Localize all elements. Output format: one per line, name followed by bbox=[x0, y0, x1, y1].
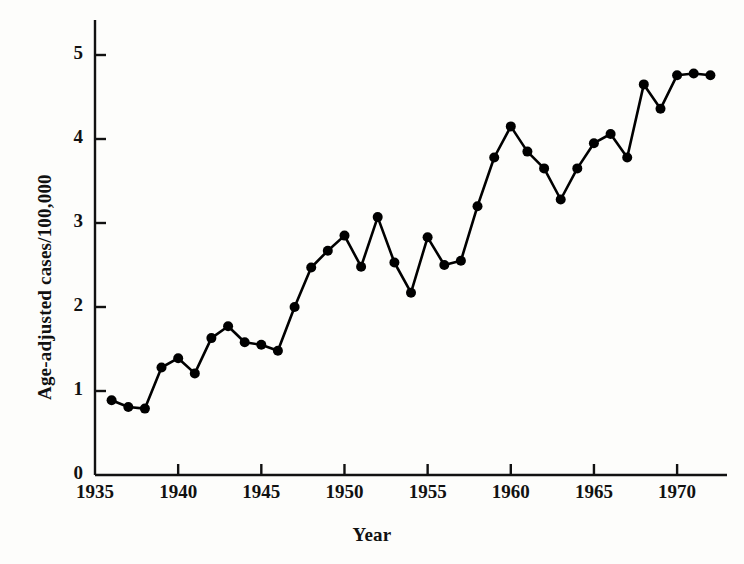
data-point-marker bbox=[622, 153, 632, 163]
data-point-marker bbox=[423, 232, 433, 242]
x-axis-tick-label: 1965 bbox=[564, 481, 624, 503]
y-axis-tick-label: 1 bbox=[49, 378, 83, 400]
y-axis-ticks bbox=[95, 55, 106, 391]
data-point-marker bbox=[373, 212, 383, 222]
data-point-marker bbox=[589, 138, 599, 148]
x-axis-title: Year bbox=[0, 524, 744, 546]
data-point-marker bbox=[439, 260, 449, 270]
data-point-marker bbox=[340, 231, 350, 241]
data-point-marker bbox=[489, 153, 499, 163]
data-point-marker bbox=[473, 201, 483, 211]
y-axis-tick-label: 3 bbox=[49, 210, 83, 232]
data-point-marker bbox=[107, 395, 117, 405]
data-point-marker bbox=[290, 302, 300, 312]
data-point-marker bbox=[705, 70, 715, 80]
data-point-marker bbox=[140, 404, 150, 414]
data-point-marker bbox=[406, 288, 416, 298]
x-axis-tick-label: 1960 bbox=[481, 481, 541, 503]
data-point-marker bbox=[456, 256, 466, 266]
data-point-marker bbox=[656, 104, 666, 114]
line-chart-canvas bbox=[0, 0, 744, 564]
data-point-marker bbox=[689, 69, 699, 79]
x-axis-tick-label: 1940 bbox=[148, 481, 208, 503]
data-point-marker bbox=[240, 337, 250, 347]
data-point-marker bbox=[522, 147, 532, 157]
x-axis-tick-label: 1945 bbox=[231, 481, 291, 503]
data-point-marker bbox=[506, 121, 516, 131]
data-series-line bbox=[112, 74, 711, 409]
y-axis-tick-label: 4 bbox=[49, 126, 83, 148]
chart-figure: Age-adjusted cases/100,000 Year 012345 1… bbox=[0, 0, 744, 564]
x-axis-tick-label: 1935 bbox=[65, 481, 125, 503]
data-point-marker bbox=[639, 79, 649, 89]
x-axis-ticks bbox=[178, 464, 677, 475]
data-point-marker bbox=[157, 363, 167, 373]
x-axis-tick-label: 1955 bbox=[398, 481, 458, 503]
data-point-marker bbox=[256, 340, 266, 350]
data-point-marker bbox=[356, 262, 366, 272]
data-point-marker bbox=[223, 321, 233, 331]
y-axis-tick-label: 2 bbox=[49, 294, 83, 316]
data-point-marker bbox=[539, 163, 549, 173]
data-point-marker bbox=[190, 368, 200, 378]
data-point-markers bbox=[107, 69, 716, 414]
axes bbox=[95, 20, 727, 475]
data-point-marker bbox=[389, 258, 399, 268]
data-point-marker bbox=[556, 195, 566, 205]
data-point-marker bbox=[173, 353, 183, 363]
data-point-marker bbox=[306, 263, 316, 273]
data-point-marker bbox=[606, 129, 616, 139]
y-axis-title: Age-adjusted cases/100,000 bbox=[34, 174, 56, 400]
y-axis-tick-label: 5 bbox=[49, 42, 83, 64]
x-axis-tick-label: 1970 bbox=[647, 481, 707, 503]
data-point-marker bbox=[323, 246, 333, 256]
x-axis-tick-label: 1950 bbox=[314, 481, 374, 503]
data-point-marker bbox=[273, 346, 283, 356]
data-point-marker bbox=[672, 70, 682, 80]
data-point-marker bbox=[572, 163, 582, 173]
data-point-marker bbox=[206, 333, 216, 343]
data-point-marker bbox=[123, 402, 133, 412]
